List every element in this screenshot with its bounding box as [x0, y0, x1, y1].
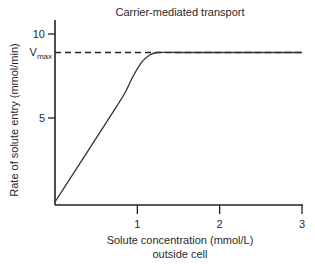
x-tick-label: 1 [134, 218, 140, 230]
x-tick-label: 2 [217, 218, 223, 230]
x-axis-label-line2: outside cell [152, 248, 207, 260]
y-tick-label: 10 [33, 28, 45, 40]
vmax-label: Vmax [30, 46, 52, 61]
x-axis-label: Solute concentration (mmol/L) [107, 234, 254, 246]
transport-rate-curve [55, 52, 302, 202]
y-axis-label: Rate of solute entry (mmol/min) [8, 43, 20, 196]
chart: Carrier-mediated transport Rate of solut… [0, 0, 315, 264]
x-tick-label: 3 [299, 218, 305, 230]
y-tick-label: 5 [39, 112, 45, 124]
chart-title: Carrier-mediated transport [116, 6, 245, 18]
